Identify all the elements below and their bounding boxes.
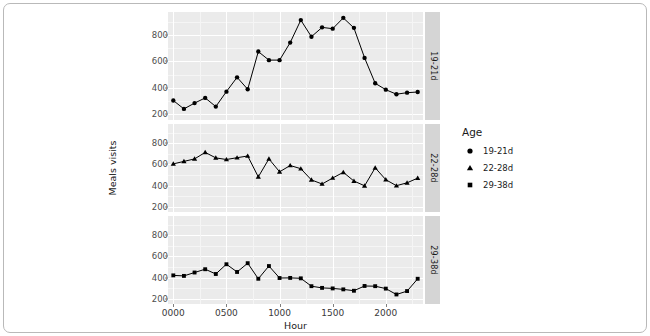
y-axis-tick-label: 800: [134, 138, 168, 148]
data-point: [362, 56, 366, 60]
y-axis-tick-label: 400: [134, 181, 168, 191]
data-point: [395, 293, 399, 297]
legend-title: Age: [462, 126, 572, 138]
data-point: [331, 26, 335, 30]
y-axis-tick-mark: [165, 61, 168, 62]
data-point: [331, 286, 335, 290]
square-marker-icon: [462, 177, 478, 193]
data-point: [341, 170, 346, 174]
y-axis-tick-mark: [165, 256, 168, 257]
y-axis-tick-label: 800: [134, 230, 168, 240]
data-point: [246, 261, 250, 265]
legend: Age 19-21d22-28d29-38d: [462, 126, 572, 194]
series-19-21d: [168, 12, 423, 120]
y-axis-tick-label: 200: [134, 294, 168, 304]
y-axis-tick-label: 400: [134, 83, 168, 93]
y-axis-tick-label: 200: [134, 202, 168, 212]
y-axis-tick-label: 600: [134, 159, 168, 169]
data-point: [352, 289, 356, 293]
y-axis-tick-mark: [165, 35, 168, 36]
strip-label-22-28d: 22-28d: [425, 124, 440, 212]
legend-item-22-28d[interactable]: 22-28d: [462, 160, 572, 176]
strip-text: 29-38d: [428, 245, 437, 275]
data-point: [299, 276, 303, 280]
data-point: [363, 284, 367, 288]
data-point: [267, 58, 271, 62]
panel-29-38d: [168, 216, 423, 304]
data-point: [203, 96, 207, 100]
data-point: [267, 264, 271, 268]
series-line: [173, 263, 417, 294]
data-point: [341, 287, 345, 291]
data-point: [415, 176, 420, 180]
data-point: [288, 40, 292, 44]
plot-area: 200400600800 200400600800 200400600800 M…: [0, 0, 650, 336]
legend-item-label: 19-21d: [483, 146, 513, 156]
y-axis-tick-label: 800: [134, 30, 168, 40]
data-point: [384, 287, 388, 291]
series-line: [173, 152, 417, 185]
y-axis-tick-mark: [165, 277, 168, 278]
y-axis-tick-mark: [165, 113, 168, 114]
data-point: [246, 87, 250, 91]
y-axis-tick-mark: [165, 185, 168, 186]
legend-item-label: 22-28d: [483, 163, 513, 173]
data-point: [235, 75, 239, 79]
data-point: [203, 267, 207, 271]
triangle-marker-icon: [462, 160, 478, 176]
figure-root: 200400600800 200400600800 200400600800 M…: [0, 0, 650, 336]
data-point: [309, 35, 313, 39]
series-29-38d: [168, 216, 423, 304]
data-point: [384, 87, 388, 91]
data-point: [299, 18, 303, 22]
data-point: [182, 274, 186, 278]
strip-label-29-38d: 29-38d: [425, 216, 440, 304]
y-axis-panel-2: 200400600800: [128, 216, 168, 304]
data-point: [320, 286, 324, 290]
data-point: [320, 25, 324, 29]
circle-marker-icon: [462, 143, 478, 159]
y-axis-panel-1: 200400600800: [128, 124, 168, 212]
y-axis-tick-mark: [165, 87, 168, 88]
data-point: [288, 276, 292, 280]
data-point: [405, 289, 409, 293]
data-point: [278, 276, 282, 280]
panel-19-21d: [168, 12, 423, 120]
data-point: [266, 156, 271, 160]
y-axis-title: Meals visits: [107, 141, 118, 196]
x-axis-tick-mark: [173, 304, 174, 307]
data-point: [310, 284, 314, 288]
data-point: [192, 101, 196, 105]
data-point: [192, 156, 197, 160]
strip-label-19-21d: 19-21d: [425, 12, 440, 120]
data-point: [213, 155, 218, 159]
y-axis-tick-label: 400: [134, 273, 168, 283]
y-axis-tick-mark: [165, 206, 168, 207]
data-point: [394, 92, 398, 96]
data-point: [256, 277, 260, 281]
x-axis-tick-mark: [386, 304, 387, 307]
data-point: [277, 58, 281, 62]
legend-item-29-38d[interactable]: 29-38d: [462, 177, 572, 193]
data-point: [373, 165, 378, 169]
data-point: [256, 174, 261, 178]
x-axis-tick-label: 1500: [321, 308, 344, 318]
legend-item-label: 29-38d: [483, 180, 513, 190]
data-point: [214, 104, 218, 108]
data-point: [182, 107, 186, 111]
legend-item-19-21d[interactable]: 19-21d: [462, 143, 572, 159]
data-point: [373, 284, 377, 288]
strip-text: 22-28d: [428, 153, 437, 183]
x-axis-tick-label: 0500: [215, 308, 238, 318]
y-axis-tick-mark: [165, 164, 168, 165]
panel-22-28d: [168, 124, 423, 212]
y-axis-tick-label: 600: [134, 56, 168, 66]
x-axis-tick-mark: [280, 304, 281, 307]
strip-text: 19-21d: [428, 51, 437, 81]
data-point: [256, 49, 260, 53]
legend-items: 19-21d22-28d29-38d: [462, 143, 572, 193]
x-axis-tick-label: 2000: [374, 308, 397, 318]
x-axis-tick-label: 1000: [268, 308, 291, 318]
data-point: [416, 90, 420, 94]
x-axis-tick-label: 0000: [162, 308, 185, 318]
